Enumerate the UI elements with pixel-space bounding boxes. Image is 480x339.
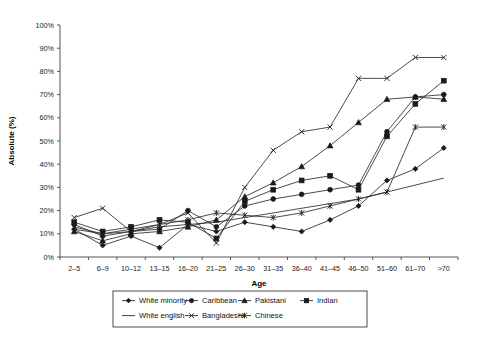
marker-diamond xyxy=(242,220,247,225)
x-tick-label: 10–12 xyxy=(121,264,141,273)
marker-circle xyxy=(189,298,193,302)
legend-item-chinese[interactable]: Chinese xyxy=(238,311,283,320)
x-tick-label: 51–60 xyxy=(377,264,397,273)
marker-square xyxy=(242,199,247,204)
chart-container: 0%10%20%30%40%50%60%70%80%90%100%Absolut… xyxy=(0,0,480,339)
marker-asterisk xyxy=(72,224,77,230)
y-tick-label: 0% xyxy=(44,253,55,262)
legend-item-caribbean[interactable]: Caribbean xyxy=(185,296,237,305)
y-tick-label: 10% xyxy=(40,229,55,238)
marker-diamond xyxy=(271,224,276,229)
series-chinese xyxy=(72,124,447,237)
legend-item-label: Pakistani xyxy=(255,296,286,305)
x-tick-label: 31–35 xyxy=(263,264,283,273)
marker-circle xyxy=(242,204,247,209)
x-tick-label: 16–20 xyxy=(178,264,198,273)
marker-diamond xyxy=(214,229,219,234)
legend-item-bangladeshi[interactable]: Bangladeshi xyxy=(185,311,244,320)
y-tick-label: 30% xyxy=(40,183,55,192)
line-chart: 0%10%20%30%40%50%60%70%80%90%100%Absolut… xyxy=(0,0,480,339)
legend-item-label: Chinese xyxy=(255,311,283,320)
marker-diamond xyxy=(100,243,105,248)
marker-square xyxy=(271,187,276,192)
marker-triangle xyxy=(299,164,305,169)
marker-square xyxy=(328,173,333,178)
marker-diamond xyxy=(126,298,131,303)
legend-item-label: Indian xyxy=(317,296,338,305)
legend-item-white-english[interactable]: White english xyxy=(122,311,185,320)
y-tick-label: 60% xyxy=(40,113,55,122)
legend-item-white-minority[interactable]: White minority xyxy=(122,296,187,305)
marker-triangle xyxy=(270,180,276,185)
x-tick-label: 13–15 xyxy=(150,264,170,273)
marker-circle xyxy=(186,208,191,213)
legend-item-label: Bangladeshi xyxy=(202,311,244,320)
series-bangladeshi xyxy=(72,55,447,246)
x-tick-label: 61–70 xyxy=(405,264,425,273)
marker-cross xyxy=(271,148,276,153)
marker-circle xyxy=(385,129,390,134)
marker-circle xyxy=(271,197,276,202)
y-axis-title: Absolute (%) xyxy=(7,116,16,165)
marker-circle xyxy=(299,192,304,197)
marker-diamond xyxy=(327,217,332,222)
y-tick-label: 90% xyxy=(40,44,55,53)
marker-cross xyxy=(242,185,247,190)
marker-cross xyxy=(72,215,77,220)
x-tick-label: 6–9 xyxy=(97,264,109,273)
y-tick-label: 50% xyxy=(40,137,55,146)
legend: White minorityCaribbeanPakistaniIndianWh… xyxy=(113,291,367,327)
marker-square xyxy=(441,78,446,83)
x-tick-label: 21–25 xyxy=(206,264,226,273)
marker-triangle xyxy=(242,194,248,199)
marker-circle xyxy=(214,224,219,229)
y-axis-ticks: 0%10%20%30%40%50%60%70%80%90%100% xyxy=(36,21,60,262)
marker-diamond xyxy=(299,229,304,234)
marker-asterisk xyxy=(384,189,389,195)
x-tick-label: 41–45 xyxy=(320,264,340,273)
y-tick-label: 100% xyxy=(36,21,55,30)
x-tick-label: >70 xyxy=(438,264,450,273)
marker-square xyxy=(299,178,304,183)
legend-item-label: White english xyxy=(139,311,185,320)
marker-asterisk xyxy=(327,203,332,209)
x-tick-label: 46–50 xyxy=(349,264,369,273)
series-line xyxy=(74,81,444,239)
y-tick-label: 20% xyxy=(40,206,55,215)
x-tick-label: 36–40 xyxy=(292,264,312,273)
legend-item-label: Caribbean xyxy=(202,296,237,305)
y-tick-label: 70% xyxy=(40,90,55,99)
y-tick-label: 80% xyxy=(40,67,55,76)
marker-circle xyxy=(328,187,333,192)
marker-square xyxy=(385,134,390,139)
legend-item-pakistani[interactable]: Pakistani xyxy=(238,296,286,305)
marker-cross xyxy=(100,206,105,211)
marker-square xyxy=(304,298,308,302)
marker-square xyxy=(413,101,418,106)
x-axis-ticks: 2–56–910–1213–1516–2021–2526–3031–3536–4… xyxy=(60,257,458,273)
marker-cross xyxy=(214,240,219,245)
x-axis-title: Age xyxy=(251,279,267,288)
marker-square xyxy=(356,187,361,192)
x-tick-label: 26–30 xyxy=(235,264,255,273)
legend-item-label: White minority xyxy=(139,296,187,305)
x-tick-label: 2–5 xyxy=(68,264,80,273)
y-tick-label: 40% xyxy=(40,160,55,169)
legend-item-indian[interactable]: Indian xyxy=(300,296,338,305)
